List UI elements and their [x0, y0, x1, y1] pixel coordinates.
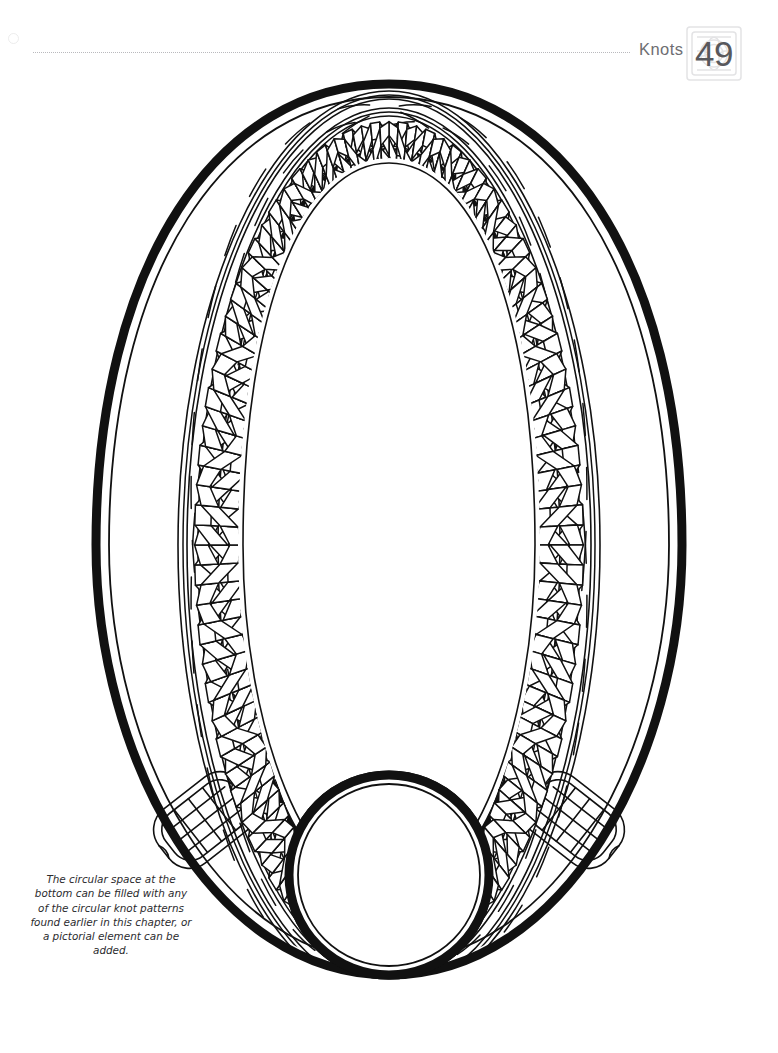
- figure-caption: The circular space at the bottom can be …: [30, 872, 192, 958]
- medallion-overlay: [289, 775, 489, 975]
- plait-ribbon-segment: [334, 169, 348, 186]
- book-page: Knots 49: [0, 0, 778, 1053]
